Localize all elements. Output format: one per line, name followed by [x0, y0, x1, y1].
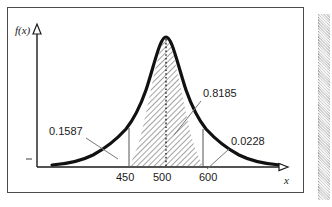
- x-tick-label-450: 450: [116, 171, 134, 183]
- y-axis-label: f(x): [15, 24, 31, 37]
- x-tick-label-500: 500: [153, 171, 171, 183]
- annotation-right-tail-leader: [207, 149, 229, 169]
- annotation-left-tail-value: 0.1587: [49, 125, 83, 137]
- normal-distribution-plot: f(x) x 450 500 600 0.1587 0.8185 0.0228: [7, 7, 304, 193]
- x-axis-arrowhead-icon: [279, 164, 288, 171]
- figure-root: f(x) x 450 500 600 0.1587 0.8185 0.0228: [0, 0, 332, 207]
- x-tick-label-600: 600: [199, 171, 217, 183]
- annotation-right-tail-value: 0.0228: [231, 135, 265, 147]
- annotation-center-area-value: 0.8185: [203, 87, 237, 99]
- y-axis-arrowhead-icon: [33, 24, 41, 34]
- scan-gutter-edge: [318, 14, 330, 200]
- x-axis-label: x: [283, 174, 289, 186]
